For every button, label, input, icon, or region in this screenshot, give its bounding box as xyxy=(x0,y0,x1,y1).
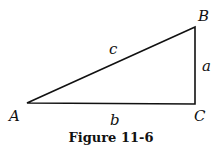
vertex-label-b: B xyxy=(197,7,209,25)
side-label-a: a xyxy=(202,57,211,75)
side-label-b: b xyxy=(110,111,120,129)
right-triangle xyxy=(27,27,195,104)
side-label-c: c xyxy=(109,40,118,58)
vertex-label-c: C xyxy=(194,107,206,125)
figure-caption: Figure 11-6 xyxy=(0,130,222,145)
vertex-label-a: A xyxy=(7,107,20,125)
